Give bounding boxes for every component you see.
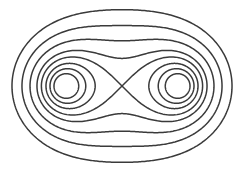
contour-diagram	[0, 0, 243, 169]
separatrix-curve	[41, 57, 202, 115]
right-lobe-contour	[165, 74, 190, 99]
left-lobe-contour	[54, 74, 79, 99]
figure-eight-separatrix	[41, 57, 202, 115]
